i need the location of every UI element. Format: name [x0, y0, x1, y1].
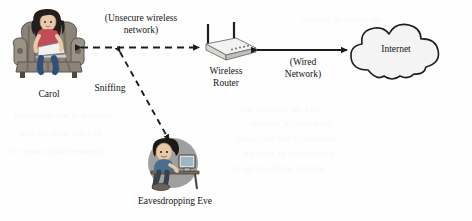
network-security-diagram: and the security was the traffic of anot… — [0, 0, 472, 221]
sniffing-link-label: Sniffing — [84, 83, 136, 95]
wireless-link-label: (Unsecure wireless network) — [88, 13, 194, 36]
sniffing-link-arrow — [120, 52, 169, 140]
wired-link-label: (Wired Network) — [272, 57, 334, 80]
connector-layer — [0, 0, 472, 221]
